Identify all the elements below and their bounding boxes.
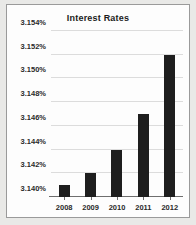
y-tick-label: 3.144% [21,136,46,145]
bar-slot [77,31,103,197]
bar-slot [130,31,156,197]
bar-2011[interactable] [138,114,149,197]
bar-2010[interactable] [111,150,122,197]
y-tick-label: 3.142% [21,160,46,169]
bar-series [51,31,183,197]
x-tick-mark [170,197,171,200]
x-tick-mark [91,197,92,200]
y-tick-label: 3.152% [21,41,46,50]
y-tick-label: 3.148% [21,89,46,98]
y-tick-label: 3.150% [21,65,46,74]
bar-slot [51,31,77,197]
plot-area: 3.140%3.142%3.144%3.146%3.148%3.150%3.15… [51,31,183,197]
chart-frame: Interest Rates 3.140%3.142%3.144%3.146%3… [6,4,190,218]
bar-2008[interactable] [59,185,70,197]
bar-slot [104,31,130,197]
x-tick-label: 2012 [161,203,178,212]
x-tick-mark [64,197,65,200]
bar-slot [157,31,183,197]
x-tick-label: 2009 [82,203,99,212]
x-tick-label: 2008 [56,203,73,212]
x-tick-label: 2011 [135,203,151,212]
x-tick-mark [143,197,144,200]
y-tick-label: 3.154% [21,18,46,27]
x-tick-label: 2010 [109,203,126,212]
x-tick-mark [117,197,118,200]
y-tick-label: 3.140% [21,184,46,193]
bar-2012[interactable] [164,55,175,197]
bar-2009[interactable] [85,173,96,197]
y-tick-label: 3.146% [21,112,46,121]
